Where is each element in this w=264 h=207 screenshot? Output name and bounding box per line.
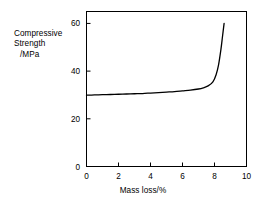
- x-axis-label-text: Mass loss/%: [120, 186, 167, 195]
- y-tick-label: 0: [58, 162, 80, 171]
- y-axis-label-line-3: /MPa: [14, 50, 62, 60]
- y-axis-label-line-2: Strength: [14, 39, 62, 49]
- y-axis-label-line-1: Compressive: [14, 29, 62, 39]
- y-tick-label: 40: [58, 67, 80, 76]
- x-tick-label: 2: [116, 172, 121, 181]
- y-tick-label: 60: [58, 19, 80, 28]
- x-tick-label: 4: [148, 172, 153, 181]
- x-axis-label: Mass loss/%: [0, 186, 264, 195]
- x-tick-label: 6: [180, 172, 185, 181]
- chart-figure: Compressive Strength /MPa 02040600246810…: [0, 0, 264, 207]
- data-curve: [87, 23, 225, 95]
- x-tick-label: 8: [212, 172, 217, 181]
- y-axis-label: Compressive Strength /MPa: [14, 29, 62, 60]
- x-tick-label: 0: [84, 172, 89, 181]
- y-tick-label: 20: [58, 114, 80, 123]
- x-tick-label: 10: [242, 172, 251, 181]
